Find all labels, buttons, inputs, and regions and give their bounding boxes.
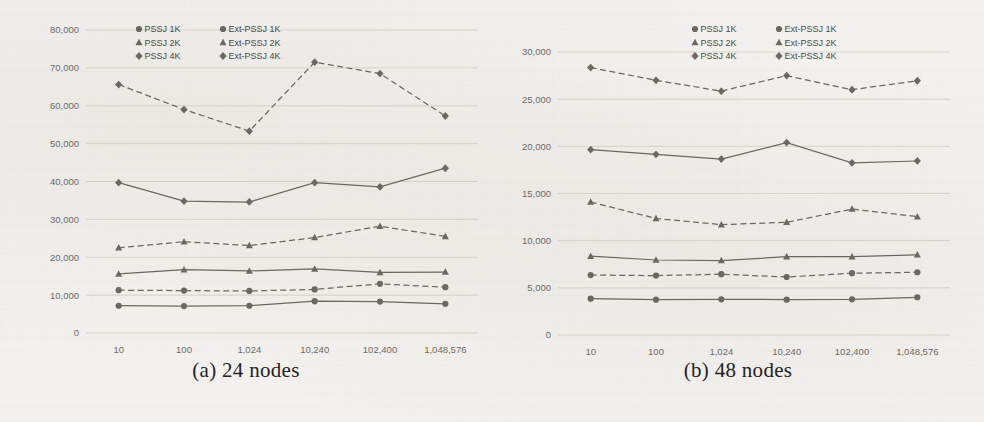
legend-label: Ext-PSSJ 2K <box>785 38 837 48</box>
circle-marker <box>914 294 920 300</box>
x-axis-tick-label: 1,024 <box>237 344 261 355</box>
diamond-marker <box>718 155 725 163</box>
series-line-pssj-2k <box>119 269 446 274</box>
circle-marker <box>718 296 724 302</box>
series-line-pssj-1k <box>119 301 446 306</box>
circle-marker <box>776 26 782 32</box>
x-axis-tick-label: 100 <box>648 346 664 357</box>
circle-marker <box>312 298 318 304</box>
circle-marker <box>784 274 790 280</box>
diamond-marker <box>442 164 449 172</box>
panel-caption-a: (a) 24 nodes <box>0 358 492 383</box>
line-chart-b: 05,00010,00015,00020,00025,00030,0001010… <box>492 0 984 360</box>
circle-marker <box>442 284 448 290</box>
legend-label: Ext-PSSJ 1K <box>785 24 837 34</box>
circle-marker <box>246 303 252 309</box>
diamond-marker <box>587 146 594 154</box>
legend-label: Ext-PSSJ 4K <box>229 51 281 61</box>
diamond-marker <box>848 86 855 94</box>
diamond-marker <box>180 106 187 114</box>
x-axis-tick-label: 10,240 <box>300 344 329 355</box>
x-axis-tick-label: 10 <box>585 346 596 357</box>
circle-marker <box>914 269 920 275</box>
diamond-marker <box>311 179 318 187</box>
series-line-pssj-1k <box>591 297 918 299</box>
circle-marker <box>181 303 187 309</box>
triangle-marker <box>377 222 384 229</box>
figure-container: 010,00020,00030,00040,00050,00060,00070,… <box>0 0 984 422</box>
series-line-pssj-4k <box>591 143 918 163</box>
y-axis-tick-label: 0 <box>74 327 79 338</box>
diamond-marker <box>376 70 383 78</box>
series-line-pssj-2k <box>591 255 918 261</box>
diamond-marker <box>219 52 226 60</box>
circle-marker <box>181 287 187 293</box>
circle-marker <box>312 286 318 292</box>
circle-marker <box>588 296 594 302</box>
y-axis-tick-label: 50,000 <box>50 138 79 149</box>
x-axis-tick-label: 10 <box>113 344 124 355</box>
diamond-marker <box>848 159 855 167</box>
y-axis-tick-label: 10,000 <box>50 290 79 301</box>
diamond-marker <box>246 127 253 135</box>
diamond-marker <box>783 139 790 147</box>
plot-area-b: 05,00010,00015,00020,00025,00030,0001010… <box>492 0 984 360</box>
diamond-marker <box>135 52 142 60</box>
triangle-marker <box>653 215 660 222</box>
circle-marker <box>692 26 698 32</box>
circle-marker <box>653 272 659 278</box>
legend-item: Ext-PSSJ 4K <box>219 51 280 61</box>
legend-label: PSSJ 2K <box>145 38 181 48</box>
legend-label: PSSJ 2K <box>701 38 737 48</box>
y-axis-tick-label: 40,000 <box>50 176 79 187</box>
x-axis-tick-label: 1,024 <box>709 346 733 357</box>
y-axis-tick-label: 30,000 <box>522 46 551 57</box>
y-axis-tick-label: 30,000 <box>50 214 79 225</box>
triangle-marker <box>311 234 318 241</box>
series-line-pssj-4k <box>119 168 446 202</box>
y-axis-tick-label: 70,000 <box>50 62 79 73</box>
diamond-marker <box>783 72 790 80</box>
y-axis-tick-label: 20,000 <box>50 252 79 263</box>
legend-item: Ext-PSSJ 4K <box>775 51 836 61</box>
triangle-marker <box>776 39 783 46</box>
legend-item: Ext-PSSJ 1K <box>220 24 281 34</box>
series-line-ext-pssj-4k <box>119 62 446 131</box>
line-chart-a: 010,00020,00030,00040,00050,00060,00070,… <box>0 0 492 360</box>
y-axis-tick-label: 0 <box>546 329 551 340</box>
diamond-marker <box>652 76 659 84</box>
diamond-marker <box>652 150 659 158</box>
triangle-marker <box>220 39 227 46</box>
legend-label: PSSJ 1K <box>145 24 181 34</box>
series-line-ext-pssj-2k <box>119 226 446 248</box>
y-axis-tick-label: 80,000 <box>50 24 79 35</box>
circle-marker <box>377 281 383 287</box>
diamond-marker <box>115 81 122 89</box>
chart-panel-a: 010,00020,00030,00040,00050,00060,00070,… <box>0 0 492 422</box>
circle-marker <box>377 298 383 304</box>
legend-item: PSSJ 2K <box>692 38 737 48</box>
circle-marker <box>442 301 448 307</box>
legend-item: PSSJ 4K <box>135 51 180 61</box>
legend-label: Ext-PSSJ 1K <box>229 24 281 34</box>
diamond-marker <box>775 52 782 60</box>
panel-caption-b: (b) 48 nodes <box>492 358 984 383</box>
circle-marker <box>136 26 142 32</box>
x-axis-tick-label: 1,048,576 <box>896 346 938 357</box>
series-line-ext-pssj-4k <box>591 68 918 92</box>
legend-label: PSSJ 4K <box>145 51 181 61</box>
legend-label: Ext-PSSJ 4K <box>785 51 837 61</box>
y-axis-tick-label: 60,000 <box>50 100 79 111</box>
y-axis-tick-label: 5,000 <box>527 282 551 293</box>
circle-marker <box>784 297 790 303</box>
circle-marker <box>220 26 226 32</box>
series-line-ext-pssj-2k <box>591 202 918 225</box>
triangle-marker <box>849 205 856 212</box>
x-axis-tick-label: 102,400 <box>363 344 397 355</box>
diamond-marker <box>376 183 383 191</box>
circle-marker <box>849 270 855 276</box>
diamond-marker <box>115 179 122 187</box>
circle-marker <box>718 271 724 277</box>
legend-item: PSSJ 2K <box>136 38 181 48</box>
y-axis-tick-label: 20,000 <box>522 141 551 152</box>
